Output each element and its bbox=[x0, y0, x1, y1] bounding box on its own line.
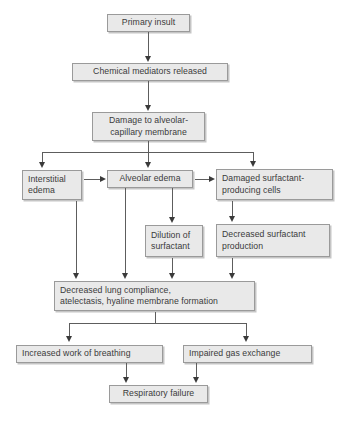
node-decreased-surfactant[interactable]: Decreased surfactant production bbox=[216, 224, 330, 257]
node-label: Respiratory failure bbox=[123, 388, 194, 400]
node-label: Impaired gas exchange bbox=[189, 348, 280, 360]
arrow-bus-to-damaged-cells bbox=[250, 161, 256, 167]
node-label: Damage to alveolar- capillary membrane bbox=[109, 115, 188, 138]
connector-alveolar-to-dilution bbox=[172, 188, 173, 218]
connector-chemical-to-damage bbox=[148, 81, 149, 106]
node-increased-work[interactable]: Increased work of breathing bbox=[16, 345, 163, 363]
arrow-decreased-surfactant-to-compliance bbox=[229, 273, 235, 279]
node-decreased-compliance[interactable]: Decreased lung compliance, atelectasis, … bbox=[54, 281, 255, 311]
node-label: Increased work of breathing bbox=[22, 348, 131, 360]
node-interstitial-edema[interactable]: Interstitial edema bbox=[22, 170, 82, 200]
arrow-alveolar-to-compliance bbox=[122, 273, 128, 279]
connector-damaged-cells-to-decreased bbox=[232, 201, 233, 217]
connector-alveolar-to-damaged-cells bbox=[195, 179, 210, 180]
arrow-damaged-cells-to-decreased bbox=[229, 216, 235, 222]
arrow-bus-to-impaired-gas bbox=[243, 336, 249, 342]
arrow-chemical-to-damage bbox=[145, 105, 151, 111]
connector-interstitial-to-alveolar bbox=[84, 179, 101, 180]
connector-increased-work-to-failure bbox=[126, 363, 127, 378]
arrow-alveolar-to-dilution bbox=[169, 217, 175, 223]
node-alveolar-edema[interactable]: Alveolar edema bbox=[107, 170, 193, 188]
node-respiratory-failure[interactable]: Respiratory failure bbox=[109, 385, 208, 403]
node-label: Damaged surfactant- producing cells bbox=[222, 173, 304, 196]
node-label: Primary insult bbox=[122, 17, 175, 29]
arrow-bus-to-alveolar bbox=[145, 162, 151, 168]
arrow-dilution-to-compliance bbox=[169, 273, 175, 279]
arrow-alveolar-to-damaged-cells bbox=[209, 176, 215, 182]
node-primary-insult[interactable]: Primary insult bbox=[107, 14, 190, 32]
arrow-increased-work-to-failure bbox=[123, 377, 129, 383]
node-label: Decreased surfactant production bbox=[222, 229, 306, 252]
arrow-bus-to-interstitial bbox=[39, 162, 45, 168]
node-label: Dilution of surfactant bbox=[151, 230, 190, 253]
connector-alveolar-to-compliance bbox=[125, 188, 126, 274]
connector-decreased-surfactant-to-compliance bbox=[232, 258, 233, 274]
node-label: Decreased lung compliance, atelectasis, … bbox=[60, 285, 218, 308]
node-label: Alveolar edema bbox=[119, 173, 180, 185]
connector-compliance-split-bus bbox=[69, 323, 246, 324]
connector-bus-to-increased-work bbox=[69, 323, 70, 336]
arrow-primary-to-chemical bbox=[145, 56, 151, 62]
node-label: Interstitial edema bbox=[28, 174, 66, 197]
arrow-bus-to-increased-work bbox=[66, 336, 72, 342]
node-damage-membrane[interactable]: Damage to alveolar- capillary membrane bbox=[92, 112, 205, 141]
flowchart-canvas: Primary insult Chemical mediators releas… bbox=[0, 0, 346, 423]
node-label: Chemical mediators released bbox=[93, 66, 207, 78]
arrow-interstitial-to-alveolar bbox=[100, 176, 106, 182]
node-damaged-surfactant-cells[interactable]: Damaged surfactant- producing cells bbox=[216, 169, 333, 200]
connector-bus-to-impaired-gas bbox=[246, 323, 247, 336]
connector-dilution-to-compliance bbox=[172, 258, 173, 274]
connector-interstitial-to-compliance bbox=[76, 201, 77, 274]
connector-impaired-gas-to-failure bbox=[196, 363, 197, 378]
arrow-impaired-gas-to-failure bbox=[193, 377, 199, 383]
node-chemical-mediators[interactable]: Chemical mediators released bbox=[72, 63, 228, 81]
arrow-interstitial-to-compliance bbox=[73, 273, 79, 279]
node-impaired-gas-exchange[interactable]: Impaired gas exchange bbox=[183, 345, 312, 363]
node-dilution-surfactant[interactable]: Dilution of surfactant bbox=[145, 225, 203, 257]
connector-primary-to-chemical bbox=[148, 32, 149, 57]
